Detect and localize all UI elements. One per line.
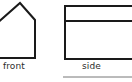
side-view-label: side	[82, 61, 101, 72]
diagram-canvas: front side	[0, 0, 132, 82]
side-view-rectangle-outline	[65, 6, 132, 59]
front-view-house-outline	[0, 3, 35, 58]
front-view-label: front	[3, 61, 25, 72]
